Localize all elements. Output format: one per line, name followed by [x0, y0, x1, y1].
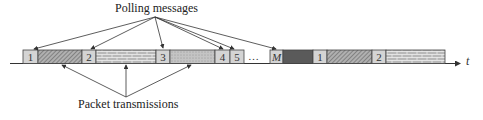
polling-slot-label: M [270, 51, 283, 63]
polling-slot-label: 2 [82, 51, 96, 63]
packet-slot-brick [96, 50, 156, 64]
packet-slot-brick [386, 50, 445, 64]
packet-slot-dark [283, 50, 313, 64]
polling-slot-label: 1 [23, 51, 38, 63]
packet-slot-hatch [327, 50, 372, 64]
polling-slot-label: 4 [215, 51, 230, 63]
packet-slot-dots [170, 50, 215, 64]
packet-transmissions-label: Packet transmissions [78, 97, 178, 112]
polling-arrows [34, 17, 276, 49]
polling-slot-label: 1 [313, 51, 327, 63]
packet-slot-hatch [38, 50, 82, 64]
polling-slot-label: 3 [156, 51, 170, 63]
polling-slot-label: 5 [230, 51, 244, 63]
polling-messages-label: Polling messages [115, 1, 198, 16]
polling-slot-label: 2 [372, 51, 386, 63]
time-axis-label: t [466, 54, 469, 69]
polling-timeline-diagram: 12345M12 … Polling messages Packet trans… [0, 0, 483, 120]
packet-arrows [62, 65, 191, 97]
ellipsis: … [248, 50, 259, 62]
